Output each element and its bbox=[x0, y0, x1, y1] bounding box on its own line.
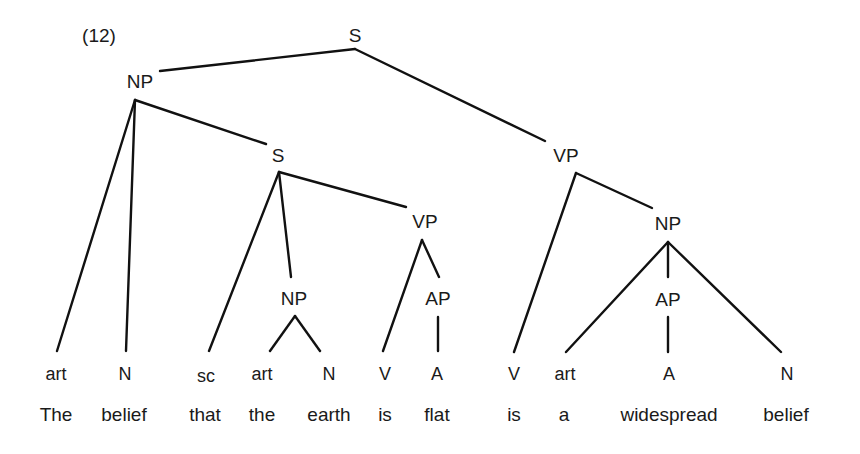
word-label: flat bbox=[424, 405, 449, 424]
branch-vp-v bbox=[514, 173, 576, 352]
branch-vp-np bbox=[576, 173, 652, 208]
branch-np3-art bbox=[566, 242, 668, 352]
node-embedded-np: NP bbox=[281, 289, 307, 308]
node-embedded-ap: AP bbox=[425, 289, 450, 308]
branch-np2-art bbox=[270, 316, 295, 351]
word-label: widespread bbox=[620, 405, 717, 424]
category-label: V bbox=[508, 365, 520, 383]
branch-s-np bbox=[160, 49, 355, 71]
category-label: A bbox=[431, 365, 443, 383]
word-label: belief bbox=[101, 405, 146, 424]
word-label: that bbox=[189, 405, 221, 424]
category-label: N bbox=[781, 365, 794, 383]
node-root-s: S bbox=[349, 26, 362, 45]
branch-s-vp bbox=[355, 49, 545, 141]
word-label: earth bbox=[307, 405, 350, 424]
branch-np3-n bbox=[668, 242, 781, 352]
branch-np-art bbox=[57, 100, 135, 351]
branch-vp2-ap bbox=[422, 240, 439, 277]
node-predicate-ap: AP bbox=[655, 290, 680, 309]
node-embedded-vp: VP bbox=[412, 212, 437, 231]
word-label: the bbox=[249, 405, 275, 424]
branch-np-n bbox=[126, 100, 135, 351]
example-number: (12) bbox=[82, 26, 116, 45]
category-label: art bbox=[251, 365, 272, 383]
word-label: belief bbox=[763, 405, 808, 424]
branch-s-np2 bbox=[279, 172, 291, 277]
branch-np-s bbox=[135, 100, 266, 144]
word-label: The bbox=[40, 405, 73, 424]
node-predicate-np: NP bbox=[655, 214, 681, 233]
category-label: art bbox=[45, 365, 66, 383]
word-label: is bbox=[507, 405, 521, 424]
node-main-vp: VP bbox=[553, 146, 578, 165]
node-subject-np: NP bbox=[127, 72, 153, 91]
category-label: art bbox=[554, 365, 575, 383]
word-label: is bbox=[378, 405, 392, 424]
branch-vp2-v bbox=[383, 240, 422, 351]
branch-s-sc bbox=[209, 172, 279, 351]
category-label: A bbox=[663, 365, 675, 383]
branch-np2-n bbox=[295, 316, 320, 351]
category-label: sc bbox=[197, 367, 215, 385]
category-label: V bbox=[379, 365, 391, 383]
node-embedded-s: S bbox=[272, 146, 285, 165]
branch-s-vp2 bbox=[279, 172, 406, 207]
category-label: N bbox=[323, 365, 336, 383]
word-label: a bbox=[559, 405, 570, 424]
category-label: N bbox=[119, 365, 132, 383]
